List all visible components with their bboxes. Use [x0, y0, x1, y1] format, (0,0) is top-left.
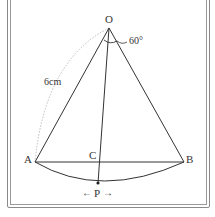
- angle-leader: [117, 41, 127, 43]
- label-angle: 60°: [129, 35, 143, 46]
- label-A: A: [24, 153, 32, 165]
- label-P: P: [94, 187, 100, 199]
- left-arrow: ←: [82, 187, 92, 198]
- right-arrow: →: [103, 187, 113, 198]
- segment-OA: [35, 28, 109, 162]
- label-O: O: [105, 13, 113, 25]
- arc-AB: [35, 162, 184, 181]
- point-P: [96, 181, 99, 184]
- segment-OP: [98, 28, 109, 183]
- label-B: B: [186, 153, 193, 165]
- segment-OB: [109, 28, 184, 162]
- label-C: C: [89, 149, 96, 161]
- angle-arc: [104, 40, 117, 43]
- sector-diagram: O 60° 6cm A B C ← P →: [0, 0, 215, 217]
- label-radius: 6cm: [44, 76, 61, 87]
